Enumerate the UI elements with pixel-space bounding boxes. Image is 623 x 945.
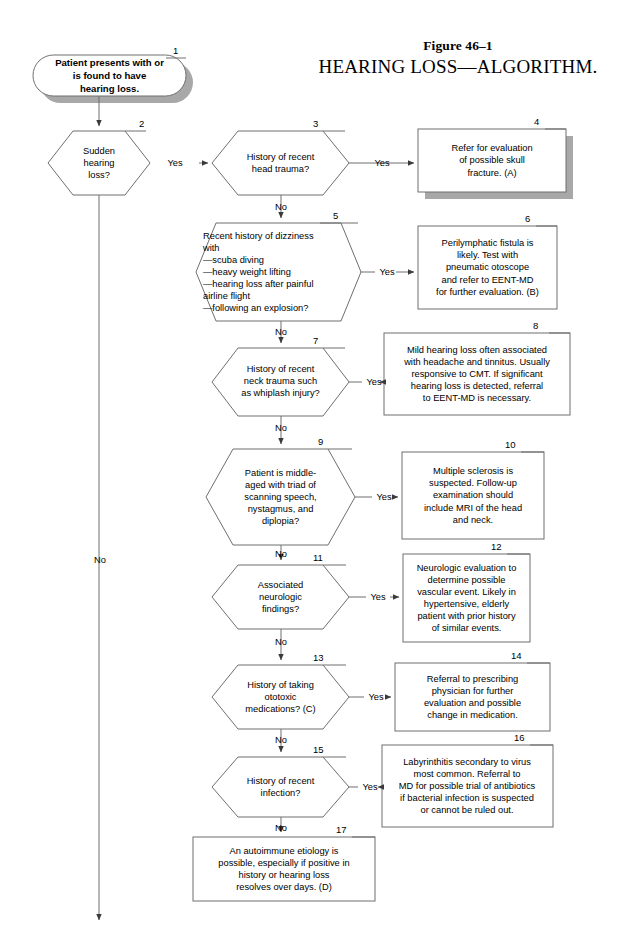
edge-label-no-11-13: No — [267, 637, 295, 647]
edge-label-no-15-17: No — [267, 823, 295, 833]
edge-label-no-7-9: No — [267, 423, 295, 433]
node-9-label: Patient is middle- aged with triad of sc… — [223, 451, 338, 543]
node-14-label: Referral to prescribing physician for fu… — [398, 665, 547, 729]
figure-heading: HEARING LOSS—ALGORITHM. — [300, 56, 616, 78]
figure-title: Figure 46–1 HEARING LOSS—ALGORITHM. — [300, 38, 616, 78]
node-2-label: Sudden hearing loss? — [56, 133, 142, 193]
edge-label-no-2-down: No — [86, 555, 114, 565]
figure-page: Figure 46–1 HEARING LOSS—ALGORITHM. Pati… — [0, 0, 623, 945]
edge-label-yes-11-12: Yes — [363, 592, 393, 602]
figure-label: Figure 46–1 — [300, 38, 616, 54]
node-5-label: Recent history of dizziness with —scuba … — [203, 227, 353, 317]
node-2-number: 2 — [139, 119, 144, 129]
node-9-number: 9 — [318, 437, 323, 447]
node-17-number: 17 — [336, 825, 347, 835]
edge-label-no-5-7: No — [267, 327, 295, 337]
node-5-number: 5 — [333, 211, 338, 221]
edge-label-yes-15-16: Yes — [355, 782, 385, 792]
node-10-label: Multiple sclerosis is suspected. Follow-… — [405, 454, 541, 537]
node-15-label: History of recent infection? — [228, 759, 333, 815]
node-12-label: Neurologic evaluation to determine possi… — [405, 556, 528, 640]
edge-label-yes-5-6: Yes — [372, 267, 402, 277]
edge-label-yes-13-14: Yes — [361, 692, 391, 702]
edge-label-yes-2-3: Yes — [160, 158, 190, 168]
node-17-label: An autoimmune etiology is possible, espe… — [196, 839, 372, 899]
node-13-number: 13 — [313, 653, 324, 663]
node-6-label: Perilymphatic fistula is likely. Test wi… — [421, 228, 554, 307]
node-13-label: History of taking ototoxic medications? … — [226, 667, 335, 727]
node-6-number: 6 — [525, 214, 530, 224]
node-16-label: Labyrinthitis secondary to virus most co… — [384, 747, 550, 825]
node-11-label: Associated neurologic findings? — [228, 567, 333, 627]
node-14-number: 14 — [511, 651, 522, 661]
edge-label-no-9-11: No — [267, 549, 295, 559]
node-4-label: Refer for evaluation of possible skull f… — [421, 131, 563, 190]
node-8-number: 8 — [533, 321, 538, 331]
node-1-label: Patient presents with or is found to hav… — [36, 56, 183, 95]
node-7-number: 7 — [313, 336, 318, 346]
node-3-number: 3 — [313, 119, 318, 129]
node-8-label: Mild hearing loss often associated with … — [387, 335, 567, 413]
node-4-number: 4 — [534, 117, 539, 127]
node-16-number: 16 — [514, 733, 525, 743]
edge-label-yes-3-4: Yes — [367, 158, 397, 168]
edge-label-yes-9-10: Yes — [369, 492, 399, 502]
node-3-label: History of recent head trauma? — [228, 133, 333, 193]
edge-label-yes-7-8: Yes — [359, 377, 389, 387]
node-10-number: 10 — [505, 440, 516, 450]
edge-label-no-13-15: No — [267, 735, 295, 745]
node-12-number: 12 — [491, 542, 502, 552]
node-7-label: History of recent neck trauma such as wh… — [225, 350, 336, 412]
node-1-number: 1 — [173, 46, 178, 56]
edge-label-no-3-5: No — [267, 202, 295, 212]
node-15-number: 15 — [313, 745, 324, 755]
node-11-number: 11 — [313, 553, 323, 563]
